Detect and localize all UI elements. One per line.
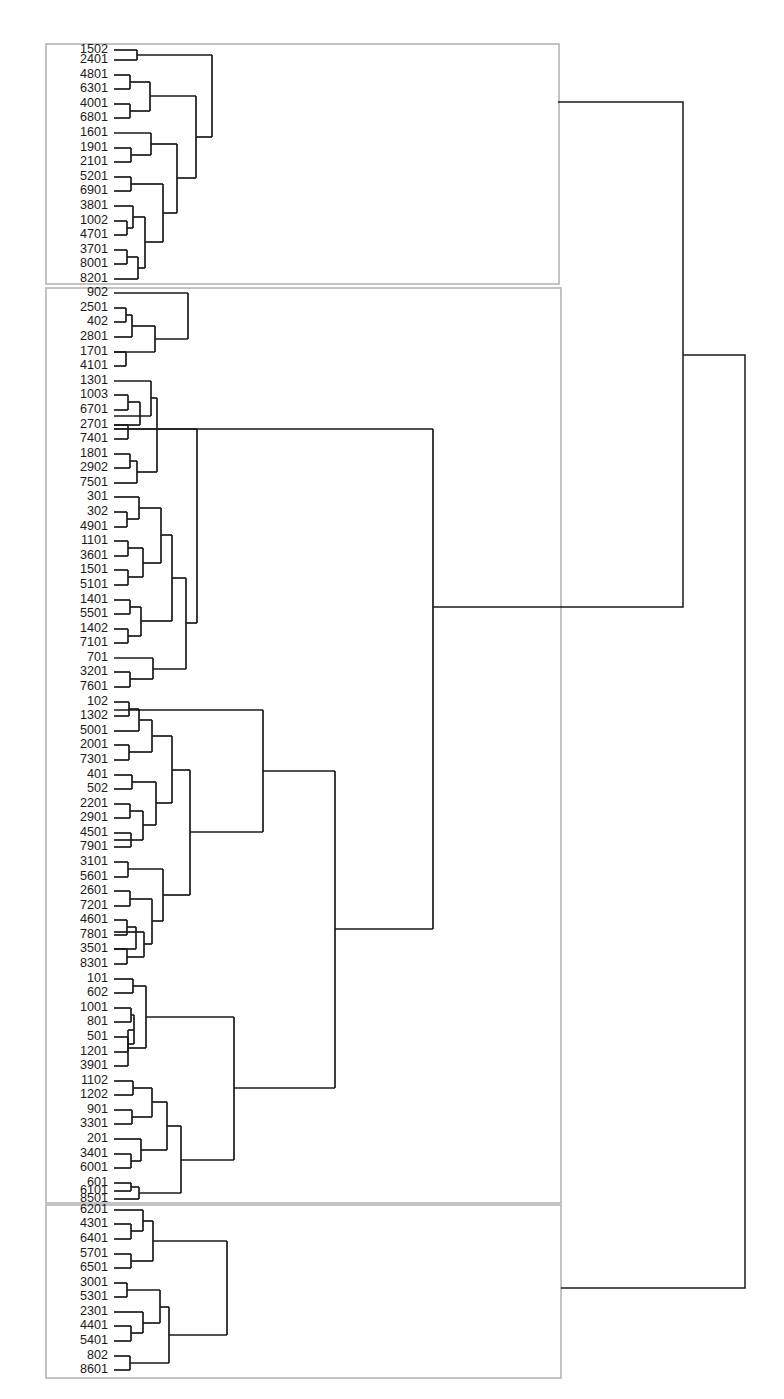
leaf-label: 5401 <box>80 1333 108 1347</box>
leaf-label: 701 <box>87 650 108 664</box>
leaf-label: 1201 <box>80 1044 108 1058</box>
leaf-label: 7101 <box>80 635 108 649</box>
leaf-label: 1801 <box>80 446 108 460</box>
leaf-label: 801 <box>87 1014 108 1028</box>
leaf-label: 5501 <box>80 606 108 620</box>
dendrogram-canvas: 1502240148016301400168011601190121015201… <box>0 0 784 1399</box>
leaf-label: 2902 <box>80 460 108 474</box>
leaf-label: 502 <box>87 781 108 795</box>
leaf-label: 6501 <box>80 1260 108 1274</box>
leaf-label: 301 <box>87 489 108 503</box>
dendrogram-figure: 1502240148016301400168011601190121015201… <box>0 0 784 1399</box>
leaf-label: 5201 <box>80 169 108 183</box>
leaf-label: 6701 <box>80 402 108 416</box>
leaf-label: 501 <box>87 1029 108 1043</box>
leaf-label: 5701 <box>80 1246 108 1260</box>
leaf-label: 4301 <box>80 1216 108 1230</box>
leaf-label: 6201 <box>80 1202 108 1216</box>
leaf-label: 2301 <box>80 1304 108 1318</box>
leaf-label: 3501 <box>80 941 108 955</box>
leaf-label: 7801 <box>80 927 108 941</box>
leaf-label: 4501 <box>80 825 108 839</box>
leaf-label: 3901 <box>80 1058 108 1072</box>
leaf-label: 3401 <box>80 1146 108 1160</box>
leaf-label: 7501 <box>80 475 108 489</box>
leaf-label: 2501 <box>80 300 108 314</box>
leaf-label: 1901 <box>80 140 108 154</box>
leaf-label: 3101 <box>80 854 108 868</box>
leaf-label: 1302 <box>80 708 108 722</box>
leaf-label: 8201 <box>80 271 108 285</box>
leaf-label: 3601 <box>80 548 108 562</box>
leaf-label: 4101 <box>80 358 108 372</box>
leaf-label: 6401 <box>80 1231 108 1245</box>
leaf-label: 902 <box>87 285 108 299</box>
leaf-label: 3801 <box>80 198 108 212</box>
leaf-label: 402 <box>87 314 108 328</box>
leaf-label: 7201 <box>80 898 108 912</box>
leaf-label: 1601 <box>80 125 108 139</box>
leaf-label: 6901 <box>80 183 108 197</box>
leaf-label: 3301 <box>80 1116 108 1130</box>
leaf-label: 901 <box>87 1102 108 1116</box>
leaf-label: 8601 <box>80 1362 108 1376</box>
leaf-label: 7301 <box>80 752 108 766</box>
leaf-label: 2801 <box>80 329 108 343</box>
leaf-label: 1301 <box>80 373 108 387</box>
leaf-label: 2201 <box>80 796 108 810</box>
leaf-label: 8001 <box>80 256 108 270</box>
leaf-label: 5301 <box>80 1289 108 1303</box>
leaf-label: 6301 <box>80 81 108 95</box>
leaf-label: 2401 <box>80 52 108 66</box>
leaf-label: 1701 <box>80 344 108 358</box>
leaf-label: 3201 <box>80 664 108 678</box>
leaf-label: 2601 <box>80 883 108 897</box>
leaf-label: 8301 <box>80 956 108 970</box>
leaf-label: 1001 <box>80 1000 108 1014</box>
leaf-label: 7401 <box>80 431 108 445</box>
leaf-label: 5601 <box>80 869 108 883</box>
leaf-label: 602 <box>87 985 108 999</box>
leaf-label: 302 <box>87 504 108 518</box>
leaf-label: 7601 <box>80 679 108 693</box>
leaf-label: 4601 <box>80 912 108 926</box>
leaf-label: 201 <box>87 1131 108 1145</box>
leaf-label: 1003 <box>80 387 108 401</box>
leaf-label: 2101 <box>80 154 108 168</box>
leaf-label: 2701 <box>80 417 108 431</box>
leaf-label: 1402 <box>80 621 108 635</box>
leaf-label: 1102 <box>81 1073 108 1087</box>
leaf-label: 6001 <box>80 1160 108 1174</box>
leaf-label: 4801 <box>80 67 108 81</box>
leaf-label: 802 <box>87 1348 108 1362</box>
figure-background <box>0 0 784 1399</box>
leaf-label: 401 <box>87 767 108 781</box>
leaf-label: 102 <box>87 694 108 708</box>
leaf-label: 7901 <box>80 839 108 853</box>
leaf-label: 2901 <box>80 810 108 824</box>
leaf-label: 3701 <box>80 242 108 256</box>
leaf-label: 4701 <box>80 227 108 241</box>
leaf-label: 1002 <box>80 213 108 227</box>
leaf-label: 4001 <box>80 96 108 110</box>
leaf-label: 5001 <box>80 723 108 737</box>
leaf-label: 101 <box>87 971 108 985</box>
leaf-label: 2001 <box>80 737 108 751</box>
leaf-label: 4401 <box>80 1318 108 1332</box>
leaf-label: 4901 <box>80 519 108 533</box>
leaf-label: 1101 <box>81 533 108 547</box>
leaf-label: 1401 <box>80 592 108 606</box>
leaf-label: 6801 <box>80 110 108 124</box>
leaf-label: 1202 <box>80 1087 108 1101</box>
leaf-label: 5101 <box>80 577 108 591</box>
leaf-label: 3001 <box>80 1275 108 1289</box>
leaf-label: 1501 <box>80 562 108 576</box>
